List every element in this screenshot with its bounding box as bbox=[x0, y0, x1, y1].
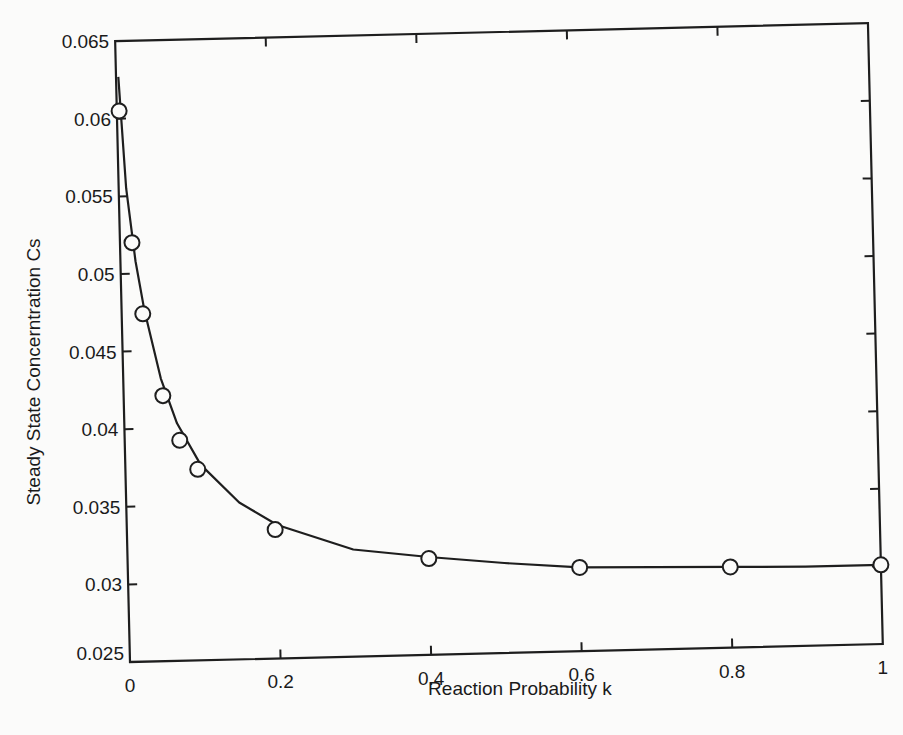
data-point-marker bbox=[155, 388, 170, 403]
y-tick-label: 0.06 bbox=[74, 109, 111, 130]
data-point-marker bbox=[421, 551, 436, 566]
y-tick-label: 0.05 bbox=[78, 264, 115, 285]
y-tick-label: 0.03 bbox=[85, 574, 122, 595]
plot-area bbox=[110, 23, 890, 662]
x-tick-label: 0.2 bbox=[267, 671, 293, 692]
data-point-marker bbox=[723, 559, 738, 574]
y-tick-label: 0.025 bbox=[76, 643, 124, 664]
x-axis-label: Reaction Probability k bbox=[428, 678, 612, 699]
data-point-marker bbox=[572, 560, 587, 575]
y-tick-labels: 0.0250.030.0350.040.0450.050.0550.060.06… bbox=[62, 31, 124, 664]
chart: 00.20.40.60.81 0.0250.030.0350.040.0450.… bbox=[0, 0, 903, 735]
data-point-marker bbox=[111, 103, 126, 118]
y-axis-label: Steady State Concerntration Cs bbox=[23, 238, 44, 505]
data-point-marker bbox=[267, 522, 282, 537]
y-tick-label: 0.055 bbox=[65, 186, 113, 207]
model-curve bbox=[118, 59, 881, 583]
x-tick-label: 0 bbox=[125, 675, 136, 696]
data-point-marker bbox=[873, 557, 888, 572]
data-point-marker bbox=[172, 433, 187, 448]
data-markers bbox=[111, 85, 888, 590]
data-point-marker bbox=[124, 235, 139, 250]
x-tick-label: 1 bbox=[878, 657, 889, 678]
y-tick-label: 0.04 bbox=[81, 419, 118, 440]
x-tick-label: 0.8 bbox=[719, 661, 745, 682]
data-point-marker bbox=[190, 462, 205, 477]
data-point-marker bbox=[135, 306, 150, 321]
y-tick-label: 0.045 bbox=[69, 342, 117, 363]
y-tick-label: 0.035 bbox=[73, 497, 121, 518]
model-line bbox=[118, 59, 881, 583]
y-tick-label: 0.065 bbox=[62, 31, 110, 52]
